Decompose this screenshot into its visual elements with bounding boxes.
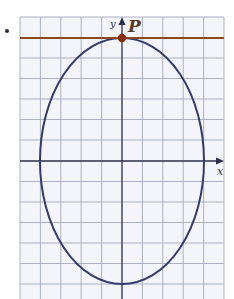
point-p xyxy=(118,34,126,42)
x-axis-label: x xyxy=(217,165,224,178)
ellipse-diagram: y P x xyxy=(0,0,234,299)
point-p-label: P xyxy=(127,16,142,36)
y-axis-label: y xyxy=(109,18,116,29)
